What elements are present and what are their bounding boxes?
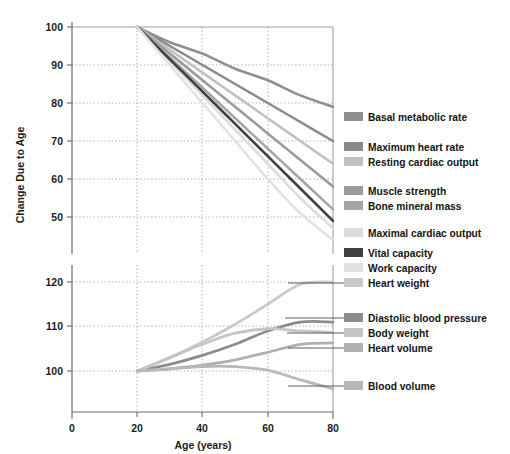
legend-swatch-body-weight bbox=[344, 328, 363, 337]
y-tick-label-70: 70 bbox=[51, 135, 63, 147]
y-tick-labels: 100 90 80 70 60 50 120 110 100 bbox=[45, 21, 63, 377]
legend-swatch-maximum-heart-rate bbox=[344, 142, 363, 151]
upper-panel-grid bbox=[72, 27, 333, 254]
legend-swatch-diastolic-blood-pressure bbox=[344, 313, 363, 322]
legend-swatch-bone-mineral-mass bbox=[344, 201, 363, 210]
series-line-diastolic-blood-pressure bbox=[137, 321, 333, 371]
legend-swatch-blood-volume bbox=[344, 381, 363, 390]
upper-series-group bbox=[137, 27, 333, 240]
legend-swatch-heart-volume bbox=[344, 343, 363, 352]
legend-swatch-work-capacity bbox=[344, 263, 363, 272]
legend-swatch-vital-capacity bbox=[344, 248, 363, 257]
legend-swatch-resting-cardiac-output bbox=[344, 157, 363, 166]
lower-series-group bbox=[137, 282, 333, 389]
x-axis-title: Age (years) bbox=[174, 439, 231, 451]
y-tick-label-90: 90 bbox=[51, 59, 63, 71]
legend-label-heart-weight: Heart weight bbox=[368, 278, 430, 289]
legend-label-vital-capacity: Vital capacity bbox=[368, 248, 433, 259]
x-tick-label-40: 40 bbox=[196, 422, 208, 434]
legend-label-bone-mineral-mass: Bone mineral mass bbox=[368, 201, 462, 212]
legend-label-diastolic-blood-pressure: Diastolic blood pressure bbox=[368, 313, 487, 324]
legend-label-basal-metabolic-rate: Basal metabolic rate bbox=[368, 112, 467, 123]
y-tick-label-80: 80 bbox=[51, 97, 63, 109]
legend-swatch-maximal-cardiac-output bbox=[344, 228, 363, 237]
series-line-muscle-strength bbox=[137, 27, 333, 187]
chart-legend: Basal metabolic rateMaximum heart rateRe… bbox=[344, 112, 487, 392]
x-tick-labels: 0 20 40 60 80 bbox=[69, 422, 339, 434]
x-tick-label-0: 0 bbox=[69, 422, 75, 434]
legend-leader-lines bbox=[285, 283, 344, 386]
y-tick-label-110: 110 bbox=[46, 320, 63, 332]
y-tick-label-60: 60 bbox=[51, 173, 63, 185]
legend-label-work-capacity: Work capacity bbox=[368, 263, 437, 274]
y-tick-label-100-upper: 100 bbox=[45, 21, 63, 33]
line-chart: 100 90 80 70 60 50 120 110 100 0 20 40 6… bbox=[0, 0, 510, 454]
legend-label-maximum-heart-rate: Maximum heart rate bbox=[368, 142, 465, 153]
chart-figure: 100 90 80 70 60 50 120 110 100 0 20 40 6… bbox=[0, 0, 510, 454]
legend-label-body-weight: Body weight bbox=[368, 328, 429, 339]
legend-label-muscle-strength: Muscle strength bbox=[368, 186, 446, 197]
y-axis-title: Change Due to Age bbox=[14, 127, 26, 224]
legend-label-blood-volume: Blood volume bbox=[368, 381, 436, 392]
x-tick-label-60: 60 bbox=[262, 422, 274, 434]
legend-label-heart-volume: Heart volume bbox=[368, 343, 433, 354]
legend-label-maximal-cardiac-output: Maximal cardiac output bbox=[368, 228, 482, 239]
y-tick-label-120: 120 bbox=[45, 276, 63, 288]
legend-swatch-basal-metabolic-rate bbox=[344, 112, 363, 121]
legend-swatch-muscle-strength bbox=[344, 186, 363, 195]
x-tick-label-80: 80 bbox=[327, 422, 339, 434]
series-line-blood-volume bbox=[137, 366, 333, 389]
legend-label-resting-cardiac-output: Resting cardiac output bbox=[368, 157, 479, 168]
x-axis-ticks bbox=[72, 412, 333, 419]
y-axis-ticks bbox=[67, 27, 72, 371]
y-tick-label-100-lower: 100 bbox=[45, 365, 63, 377]
legend-swatch-heart-weight bbox=[344, 278, 363, 287]
x-tick-label-20: 20 bbox=[131, 422, 143, 434]
y-tick-label-50: 50 bbox=[51, 211, 63, 223]
